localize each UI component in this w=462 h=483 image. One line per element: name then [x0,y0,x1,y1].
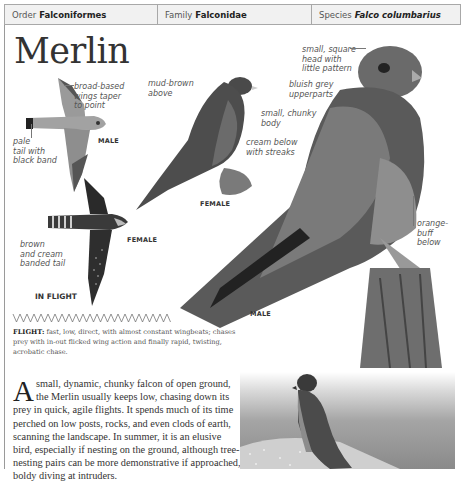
species-description: Asmall, dynamic, chunky falcon of open g… [13,377,243,483]
annotation-small-square-head: small, square head with little pattern [302,45,356,74]
taxonomy-family: Family Falconidae [158,5,312,24]
leader-line [64,85,74,86]
habitat-photo [240,372,455,469]
family-label: Family [165,10,192,20]
leader-line [350,48,366,49]
annotation-orange-buff-below: orange- buff below [417,219,448,248]
description-text: small, dynamic, chunky falcon of open gr… [13,378,241,481]
flight-note: FLIGHT: fast, low, direct, with almost c… [13,327,238,357]
order-value: Falconiformes [39,10,106,20]
male-flight-tag: MALE [98,137,119,145]
flight-pattern-zigzag-icon [13,313,173,323]
drop-cap: A [13,379,34,403]
page-title: Merlin [14,31,129,71]
leader-line [31,124,32,138]
taxonomy-species: Species Falco columbarius [312,5,460,24]
annotation-female-tail: brown and cream banded tail [20,240,65,269]
male-perched-tag: MALE [250,310,271,318]
annotation-wings: broad-based wings taper to point [74,82,124,111]
species-label: Species [319,10,352,20]
flight-note-label: FLIGHT: [13,328,44,336]
taxonomy-bar: Order Falconiformes Family Falconidae Sp… [4,4,461,25]
annotation-small-chunky-body: small, chunky body [261,109,316,128]
leader-line [413,196,414,226]
in-flight-heading: IN FLIGHT [35,292,77,301]
order-label: Order [12,10,36,20]
taxonomy-order: Order Falconiformes [5,5,158,24]
flight-note-text: fast, low, direct, with almost constant … [13,328,235,356]
family-value: Falconidae [195,10,246,20]
female-flight-tag: FEMALE [127,236,157,244]
species-value: Falco columbarius [355,10,441,20]
page-frame-left [4,4,5,469]
annotation-male-tail: pale tail with black band [13,137,57,166]
annotation-bluish-grey-upperparts: bluish grey upperparts [289,80,333,99]
